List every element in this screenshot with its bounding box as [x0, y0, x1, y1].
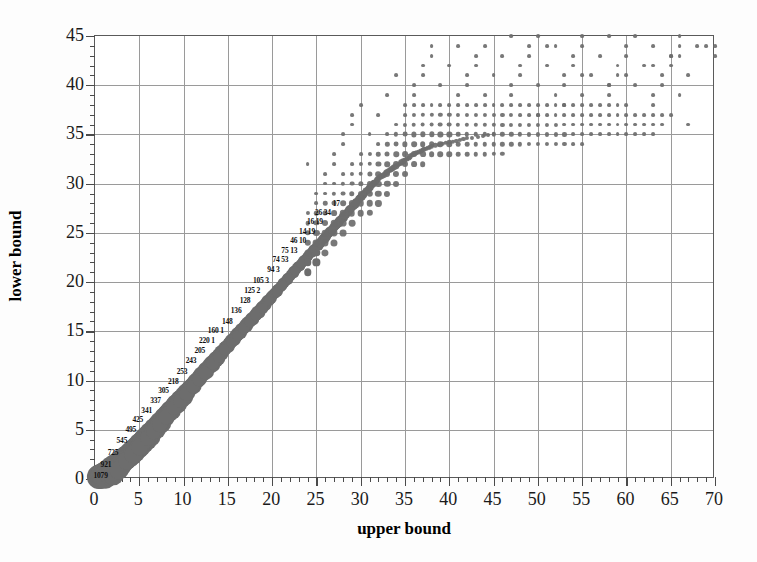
count-label: 148 — [222, 316, 233, 325]
x-minor-tick — [246, 477, 247, 482]
data-bubble-lattice — [669, 113, 673, 117]
data-bubble-lattice — [341, 133, 345, 137]
x-minor-tick — [210, 477, 211, 482]
data-bubble-lattice — [536, 83, 540, 87]
data-bubble-lattice — [474, 54, 478, 58]
data-bubble-lattice — [465, 73, 469, 77]
data-bubble-lattice — [341, 182, 345, 186]
data-bubble-lattice — [322, 230, 329, 237]
data-bubble-lattice — [518, 64, 522, 68]
data-bubble-lattice — [554, 132, 558, 136]
x-minor-tick — [387, 477, 388, 482]
data-bubble-lattice — [562, 132, 566, 136]
data-bubble-lattice — [340, 220, 347, 227]
y-minor-tick — [90, 253, 95, 254]
data-bubble-lattice — [598, 113, 602, 117]
x-minor-tick — [529, 477, 530, 482]
data-bubble-lattice — [394, 132, 398, 136]
data-bubble-lattice — [430, 54, 434, 58]
y-tick-label: 40 — [66, 74, 84, 95]
data-bubble-lattice — [447, 64, 451, 68]
x-minor-tick — [458, 477, 459, 482]
data-bubble-lattice — [483, 93, 487, 97]
data-bubble-lattice — [660, 113, 664, 117]
gridline-vertical — [139, 36, 140, 477]
data-bubble-lattice — [491, 152, 495, 156]
data-bubble-lattice — [554, 93, 558, 97]
data-bubble-lattice — [421, 64, 425, 68]
x-minor-tick — [281, 477, 282, 482]
y-minor-tick — [90, 321, 95, 322]
x-minor-tick — [697, 477, 698, 482]
data-bubble-lattice — [447, 122, 452, 127]
count-label: 105 3 — [253, 276, 269, 285]
data-bubble-lattice — [474, 113, 478, 117]
data-bubble-lattice — [518, 73, 522, 77]
x-minor-tick — [476, 477, 477, 482]
x-major-tick — [449, 477, 450, 486]
count-label: 160 1 — [208, 326, 224, 335]
x-minor-tick — [467, 477, 468, 482]
data-bubble-lattice — [678, 44, 682, 48]
x-minor-tick — [573, 477, 574, 482]
x-tick-label: 5 — [134, 489, 143, 510]
data-bubble-lattice — [375, 190, 381, 196]
data-bubble-lattice — [465, 83, 469, 87]
data-bubble-lattice — [607, 93, 611, 97]
x-minor-tick — [688, 477, 689, 482]
data-bubble-outlier — [704, 44, 708, 48]
count-label: 253 — [177, 366, 188, 375]
data-bubble-lattice — [323, 172, 327, 176]
x-major-tick — [405, 477, 406, 486]
data-bubble-lattice — [465, 122, 469, 126]
data-bubble-lattice — [571, 113, 575, 117]
x-tick-label: 0 — [90, 489, 99, 510]
data-bubble-lattice — [580, 103, 584, 107]
x-minor-tick — [502, 477, 503, 482]
y-minor-tick — [90, 262, 95, 263]
data-bubble-lattice — [456, 93, 460, 97]
data-bubble-lattice — [412, 122, 417, 127]
y-major-tick — [86, 233, 95, 234]
data-bubble-lattice — [323, 201, 327, 205]
data-bubble-lattice — [545, 64, 549, 68]
data-bubble-lattice — [313, 239, 320, 246]
data-bubble-lattice — [332, 152, 336, 156]
y-minor-tick — [90, 449, 95, 450]
data-bubble-lattice — [536, 132, 540, 136]
x-minor-tick — [653, 477, 654, 482]
gridline-horizontal — [95, 430, 713, 431]
data-bubble-lattice — [332, 182, 336, 186]
gridline-vertical — [671, 36, 672, 477]
data-bubble-lattice — [366, 210, 372, 216]
count-label: 75 13 — [281, 245, 297, 254]
x-minor-tick — [219, 477, 220, 482]
data-bubble-lattice — [447, 132, 452, 137]
data-bubble-lattice — [563, 83, 567, 87]
data-bubble-outlier — [695, 44, 699, 48]
data-bubble-lattice — [385, 93, 389, 97]
count-label: 425 — [132, 414, 143, 423]
data-bubble-lattice — [357, 200, 364, 207]
data-bubble-outlier — [651, 64, 655, 68]
y-minor-tick — [90, 105, 95, 106]
count-label: 725 — [108, 448, 119, 457]
count-label: 46 10 — [290, 235, 306, 244]
data-bubble-lattice — [456, 132, 461, 137]
y-tick-label: 20 — [66, 271, 84, 292]
data-bubble-outlier — [713, 54, 717, 58]
data-bubble-lattice — [536, 123, 540, 127]
data-bubble-lattice — [402, 171, 408, 177]
data-bubble-lattice — [341, 142, 345, 146]
data-bubble-lattice — [384, 161, 390, 167]
data-bubble-lattice — [393, 171, 399, 177]
data-bubble-lattice — [474, 152, 478, 156]
data-bubble-lattice — [527, 103, 531, 107]
data-bubble-lattice — [500, 152, 504, 156]
data-bubble-lattice — [420, 122, 425, 127]
data-bubble-lattice — [580, 142, 584, 146]
data-bubble-lattice — [580, 44, 584, 48]
data-bubble-lattice — [536, 142, 540, 146]
data-bubble-lattice — [385, 152, 390, 157]
data-bubble-lattice — [306, 211, 310, 215]
